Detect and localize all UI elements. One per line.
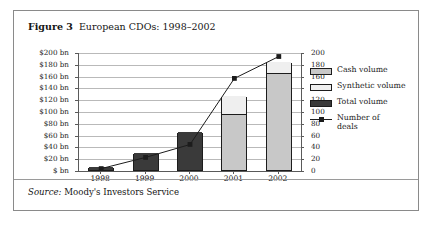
legend-item-number-of-deals[interactable]: Number ofdeals [310, 113, 418, 135]
left-axis-tick [75, 100, 78, 101]
right-axis-tick-label: 200 [311, 49, 325, 57]
left-axis-tick-label: $ bn [53, 167, 69, 175]
left-axis-labels: $ bn$20 bn$40 bn$60 bn$80 bn$100 bn$120 … [14, 53, 75, 171]
legend-label: Total volume [337, 97, 388, 106]
left-axis-tick [75, 171, 78, 172]
right-axis-tick [301, 171, 304, 172]
right-axis-tick [301, 100, 304, 101]
plot-area [78, 53, 302, 172]
line-path [101, 57, 279, 169]
left-axis-tick-label: $120 bn [39, 96, 69, 104]
x-axis-tick [233, 171, 234, 174]
line-marker-2001 [232, 76, 237, 81]
right-axis-tick [301, 124, 304, 125]
source-divider [14, 179, 418, 180]
left-axis-tick-label: $180 bn [39, 61, 69, 69]
right-axis-tick [301, 65, 304, 66]
line-marker-2000 [188, 142, 193, 147]
x-axis-tick [278, 171, 279, 174]
left-axis-tick [75, 65, 78, 66]
line-marker-2002 [276, 54, 281, 59]
legend-label: Synthetic volume [337, 81, 406, 90]
chart-legend: Cash volumeSynthetic volumeTotal volumeN… [310, 65, 418, 135]
line-series-number-of-deals [79, 53, 301, 171]
left-axis-tick-label: $100 bn [39, 108, 69, 116]
legend-line-marker-icon [310, 119, 332, 120]
right-axis-tick [301, 159, 304, 160]
left-axis-tick [75, 159, 78, 160]
left-axis-tick-label: $60 bn [44, 132, 69, 140]
left-axis-tick-label: $140 bn [39, 84, 69, 92]
left-axis-tick [75, 136, 78, 137]
legend-label: Number ofdeals [337, 113, 380, 131]
source-value: Moody's Investors Service [62, 187, 179, 197]
legend-label: Cash volume [337, 65, 388, 74]
left-axis-tick [75, 124, 78, 125]
right-axis-tick [301, 88, 304, 89]
left-axis-tick-label: $160 bn [39, 73, 69, 81]
right-axis-tick [301, 136, 304, 137]
left-axis-tick-label: $40 bn [44, 143, 69, 151]
right-axis-tick [301, 53, 304, 54]
left-axis-tick [75, 53, 78, 54]
legend-swatch-icon [310, 68, 332, 75]
figure-panel: Figure 3 European CDOs: 1998–2002 $ bn$2… [13, 10, 419, 211]
right-axis-tick-label: 40 [311, 143, 320, 151]
right-axis-tick-label: 20 [311, 155, 320, 163]
left-axis-tick-label: $200 bn [39, 49, 69, 57]
x-axis-tick [189, 171, 190, 174]
right-axis-tick-label: 0 [311, 167, 316, 175]
legend-item-cash-volume[interactable]: Cash volume [310, 65, 418, 81]
left-axis-tick [75, 88, 78, 89]
left-axis-tick-label: $80 bn [44, 120, 69, 128]
legend-item-synthetic-volume[interactable]: Synthetic volume [310, 81, 418, 97]
source-label: Source: [28, 187, 62, 197]
legend-swatch-icon [310, 100, 332, 107]
line-marker-1999 [143, 155, 148, 160]
left-axis-tick-label: $20 bn [44, 155, 69, 163]
source-note: Source: Moody's Investors Service [28, 187, 179, 197]
legend-swatch-icon [310, 84, 332, 91]
legend-square-marker-icon [319, 117, 324, 122]
right-axis-tick [301, 77, 304, 78]
left-axis-tick [75, 147, 78, 148]
left-axis-tick [75, 77, 78, 78]
left-axis-tick [75, 112, 78, 113]
right-axis-tick [301, 112, 304, 113]
legend-item-total-volume[interactable]: Total volume [310, 97, 418, 113]
chart-canvas: $ bn$20 bn$40 bn$60 bn$80 bn$100 bn$120 … [14, 11, 420, 212]
x-axis-tick [100, 171, 101, 174]
right-axis-tick [301, 147, 304, 148]
x-axis-tick [145, 171, 146, 174]
